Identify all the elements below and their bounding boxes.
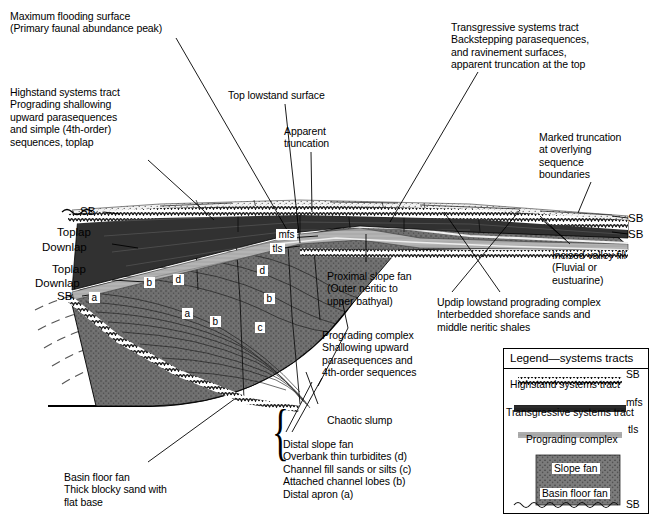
legend-panel: Legend—systems tracts bbox=[503, 348, 649, 514]
facies-chip-b: b bbox=[264, 293, 275, 304]
annotation-updip-lowstand-prograding-complex: Updip lowstand prograding complex Interb… bbox=[437, 296, 601, 333]
label-downlap-upper: Downlap bbox=[42, 241, 87, 253]
annotation-chaotic-slump: Chaotic slump bbox=[327, 414, 392, 426]
label-sb-right-upper: SB bbox=[628, 212, 643, 224]
label-sb-left-low: SB bbox=[57, 290, 72, 302]
facies-chip-a: a bbox=[182, 308, 193, 319]
facies-chip-d: d bbox=[257, 265, 268, 276]
figure-root: Maximum flooding surface (Primary faunal… bbox=[0, 0, 658, 523]
facies-chip-c: c bbox=[255, 322, 265, 333]
legend-row-0-code: SB bbox=[626, 369, 640, 380]
legend-slope-fan: Slope fan bbox=[552, 463, 600, 474]
label-mfs: mfs bbox=[276, 229, 297, 240]
facies-chip-a: a bbox=[89, 292, 100, 303]
legend-sb-bottom: SB bbox=[626, 499, 640, 510]
label-sb-top-left: SB bbox=[80, 205, 95, 217]
legend-basin-floor-fan: Basin floor fan bbox=[540, 488, 610, 499]
annotation-highstand-systems-tract: Highstand systems tract Prograding shall… bbox=[10, 86, 120, 148]
legend-row-1-text: Transgressive systems tract bbox=[506, 407, 634, 418]
label-toplap-upper: Toplap bbox=[57, 226, 91, 238]
annotation-transgressive-systems-tract: Transgressive systems tract Backstepping… bbox=[451, 21, 589, 71]
label-sb-right-lower: SB bbox=[628, 228, 643, 240]
annotation-marked-truncation: Marked truncation at overlying sequence … bbox=[539, 131, 621, 181]
annotation-top-lowstand-surface: Top lowstand surface bbox=[228, 89, 325, 101]
facies-chip-b: b bbox=[210, 316, 221, 327]
facies-chip-d: d bbox=[173, 274, 184, 285]
facies-chip-b: b bbox=[144, 277, 155, 288]
annotation-prograding-complex: Prograding complex Shallowing upward par… bbox=[322, 329, 416, 379]
label-toplap-lower: Toplap bbox=[52, 263, 86, 275]
annotation-basin-floor-fan: Basin floor fan Thick blocky sand with f… bbox=[64, 471, 167, 508]
legend-row-1-code: mfs bbox=[626, 397, 643, 408]
legend-row-0-text: Highstand systems tract bbox=[510, 379, 620, 390]
legend-row-2-text: Prograding complex bbox=[526, 434, 618, 445]
legend-row-2-code: tls bbox=[628, 424, 638, 435]
annotation-proximal-slope-fan: Proximal slope fan (Outer neritic to upp… bbox=[327, 270, 412, 307]
annotation-distal-slope-fan: Distal slope fan Overbank thin turbidite… bbox=[283, 438, 411, 500]
annotation-apparent-truncation: Apparent truncation bbox=[284, 125, 329, 150]
annotation-incised-valley-fill: Incised valley fill (Fluvial or eustuari… bbox=[552, 249, 626, 286]
label-downlap-lower: Downlap bbox=[35, 277, 80, 289]
label-tls: tls bbox=[270, 243, 285, 254]
annotation-maximum-flooding-surface: Maximum flooding surface (Primary faunal… bbox=[10, 10, 162, 35]
